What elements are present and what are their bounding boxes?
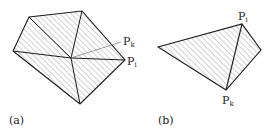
figure-b: Pi Pk (b) — [158, 10, 261, 127]
figure-a: Pk Pi (a) — [9, 11, 137, 127]
label-pi-a: Pi — [127, 55, 137, 69]
caption-a: (a) — [9, 114, 24, 127]
caption-b: (b) — [158, 114, 174, 127]
triangulation-diagram: Pk Pi (a) Pi Pk (b) — [0, 0, 272, 134]
label-pk-a: Pk — [123, 35, 135, 49]
label-pk-b: Pk — [222, 94, 234, 108]
label-pi-b: Pi — [238, 10, 248, 24]
polygon-b — [158, 24, 261, 90]
